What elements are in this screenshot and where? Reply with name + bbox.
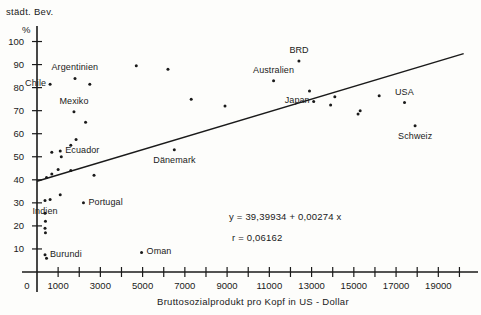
data-point — [44, 227, 47, 230]
y-axis-unit: % — [22, 24, 31, 35]
x-tick-label: 9000 — [207, 280, 247, 291]
point-label-burundi: Burundi — [50, 249, 82, 259]
data-point — [57, 168, 60, 171]
data-point — [140, 251, 143, 254]
data-point — [74, 77, 77, 80]
data-point — [357, 113, 360, 116]
x-tick-label: 19000 — [418, 280, 458, 291]
data-point — [333, 95, 336, 98]
data-point — [59, 193, 62, 196]
point-label-usa: USA — [395, 87, 414, 97]
point-label-mexiko: Mexiko — [59, 96, 88, 106]
data-point — [45, 176, 48, 179]
data-point — [75, 138, 78, 141]
y-tick-label: 60 — [2, 128, 24, 139]
data-point — [329, 103, 332, 106]
data-point — [60, 155, 63, 158]
point-label-ecuador: Ecuador — [65, 145, 99, 155]
data-point — [45, 257, 48, 260]
x-tick-label: 13000 — [292, 280, 332, 291]
data-point — [88, 83, 91, 86]
y-tick-label: 10 — [2, 243, 24, 254]
point-label-schweiz: Schweiz — [398, 131, 432, 141]
data-point — [190, 98, 193, 101]
point-label-japan: Japan — [285, 95, 310, 105]
data-point — [359, 109, 362, 112]
data-point — [44, 220, 47, 223]
y-axis-title: städt. Bev. — [6, 6, 53, 17]
point-label-brd: BRD — [289, 45, 308, 55]
data-point — [50, 173, 53, 176]
y-tick-label: 40 — [2, 174, 24, 185]
y-tick-label: 50 — [2, 151, 24, 162]
x-tick-label: 11000 — [249, 280, 289, 291]
data-point — [135, 64, 138, 67]
y-tick-label: 30 — [2, 197, 24, 208]
data-point — [166, 68, 169, 71]
data-point — [173, 148, 176, 151]
data-point — [44, 199, 47, 202]
y-tick-label: 100 — [2, 36, 24, 47]
data-point — [272, 79, 275, 82]
data-point — [223, 105, 226, 108]
plot-canvas — [0, 0, 481, 315]
data-point — [49, 198, 52, 201]
data-point — [49, 83, 52, 86]
y-tick-label: 80 — [2, 82, 24, 93]
x-tick-label: 7000 — [165, 280, 205, 291]
regression-equation-text: y = 39,39934 + 0,00274 x — [229, 211, 342, 222]
x-tick-label: 3000 — [80, 280, 120, 291]
x-tick-label: 17000 — [376, 280, 416, 291]
scatter-plot-figure: 102030405060708090100 100030005000700090… — [0, 0, 481, 315]
data-point — [414, 124, 417, 127]
point-label-chile: Chile — [25, 78, 46, 88]
data-point — [69, 169, 72, 172]
x-axis-title: Bruttosozialprodukt pro Kopf in US - Dol… — [157, 296, 349, 307]
data-point — [72, 110, 75, 113]
data-points-group — [44, 60, 417, 260]
correlation-coefficient-text: r = 0,06162 — [232, 232, 283, 243]
data-point — [297, 60, 300, 63]
y-tick-label: 20 — [2, 220, 24, 231]
y-tick-label: 70 — [2, 105, 24, 116]
point-label-argentinien: Argentinien — [52, 62, 99, 72]
point-label-portugal: Portugal — [88, 197, 122, 207]
point-label-indien: Indien — [33, 206, 58, 216]
data-point — [378, 94, 381, 97]
regression-line-segment — [37, 54, 464, 182]
point-label-oman: Oman — [147, 246, 172, 256]
data-point — [403, 101, 406, 104]
x-tick-label: 15000 — [334, 280, 374, 291]
data-point — [312, 100, 315, 103]
point-label-australien: Australien — [253, 65, 294, 75]
data-point — [59, 150, 62, 153]
data-point — [82, 201, 85, 204]
data-point — [44, 231, 47, 234]
data-point — [308, 90, 311, 93]
y-tick-label: 90 — [2, 59, 24, 70]
point-label-d-nemark: Dänemark — [153, 155, 195, 165]
regression-line — [37, 54, 464, 182]
x-origin-label: 0 — [7, 280, 47, 291]
data-point — [93, 174, 96, 177]
data-point — [44, 253, 47, 256]
x-tick-label: 5000 — [123, 280, 163, 291]
data-point — [84, 121, 87, 124]
data-point — [50, 151, 53, 154]
